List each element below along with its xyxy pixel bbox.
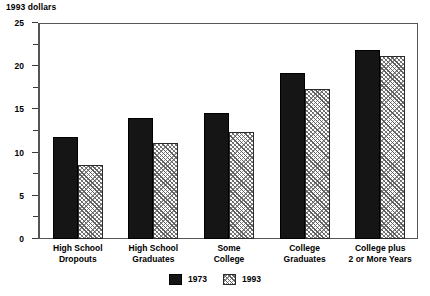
y-axis-minor-tick [33,87,38,88]
bar-group [40,23,116,239]
legend-swatch-1973 [169,274,182,285]
legend-item-1993: 1993 [223,274,261,285]
bar-1973-5 [355,50,380,239]
bar-group [342,23,418,239]
bar-1973-3 [204,113,229,239]
y-axis-tick-label: 0 [19,235,24,244]
y-axis-tick-label: 10 [15,148,24,157]
bar-1993-3 [229,132,254,239]
bar-1993-4 [305,89,330,239]
bar-1973-1 [53,137,78,239]
chart-legend: 19731993 [0,274,430,285]
y-axis-minor-tick [33,216,38,217]
x-axis-label-line: College plus [330,243,430,254]
bars-layer [40,23,418,239]
legend-swatch-1993 [223,274,236,285]
bar-1993-5 [380,56,405,239]
y-axis-major-tick: 25 [32,22,38,23]
x-axis-label-line: 2 or More Years [330,254,430,265]
x-axis-category-labels: High SchoolDropoutsHigh SchoolGraduatesS… [40,243,418,269]
y-axis-major-tick: 20 [32,65,38,66]
y-axis-major-tick: 0 [32,238,38,239]
legend-item-1973: 1973 [169,274,207,285]
bar-group [191,23,267,239]
bar-group [116,23,192,239]
legend-label: 1973 [188,275,207,284]
y-axis-minor-tick [33,130,38,131]
x-axis-label: College plus2 or More Years [330,243,430,264]
bar-1993-2 [153,143,178,239]
y-axis-tick-label: 20 [15,62,24,71]
y-axis-minor-tick [33,44,38,45]
bar-group [267,23,343,239]
bar-1973-2 [128,118,153,239]
y-axis-tick-label: 25 [15,19,24,28]
y-axis-unit-label: 1993 dollars [6,2,56,12]
bar-1993-1 [78,165,103,239]
y-axis-minor-tick [33,173,38,174]
y-axis-tick-label: 5 [19,192,24,201]
legend-label: 1993 [242,275,261,284]
bar-1973-4 [280,73,305,239]
y-axis-tick-label: 15 [15,105,24,114]
y-axis-major-tick: 15 [32,108,38,109]
y-axis-major-tick: 5 [32,195,38,196]
y-axis-major-tick: 10 [32,152,38,153]
bar-chart: 1993 dollars 0510152025 High SchoolDropo… [0,0,430,296]
